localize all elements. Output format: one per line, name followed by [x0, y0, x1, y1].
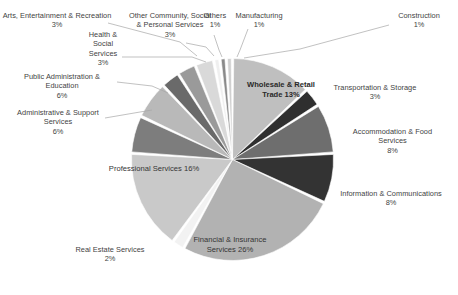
- label-health-social-services: Health & Social Services 3%: [78, 30, 128, 67]
- label-manufacturing: Manufacturing 1%: [225, 11, 293, 30]
- label-publicadmin-line1: Public Administration: [24, 72, 93, 81]
- label-transportation-storage: Transportation & Storage 3%: [330, 83, 420, 102]
- label-health-pct: 3%: [78, 58, 128, 67]
- label-publicadmin-pct: 6%: [8, 91, 116, 100]
- leader-line-health: [122, 57, 206, 62]
- label-realestate-line1: Real Estate Services: [76, 245, 145, 254]
- label-financial-line1: Financial & Insurance: [193, 235, 266, 244]
- label-accommodation-food-services: Accommodation & Food Services 8%: [340, 127, 445, 155]
- label-health-line1: Health &: [89, 30, 118, 39]
- leader-line-construction: [244, 25, 389, 58]
- label-accommodation-pct: 8%: [340, 146, 445, 155]
- label-manufacturing-pct: 1%: [225, 20, 293, 29]
- label-public-administration-education: Public Administration & Education 6%: [8, 72, 116, 100]
- pie-chart-figure: Arts, Entertainment & Recreation 3% Heal…: [0, 0, 458, 295]
- label-administrative-line1: Administrative &: [17, 108, 71, 117]
- label-professional-services: Professional Services 16%: [102, 164, 206, 174]
- label-wholesale-pct: 13%: [285, 90, 300, 99]
- label-wholesale-line1: Wholesale & Retail: [247, 80, 315, 89]
- label-accommodation-line1: Accommodation &: [353, 127, 413, 136]
- label-health-line2: Social: [93, 39, 113, 48]
- label-others-line1: Others: [204, 11, 226, 20]
- label-financial-pct: 26%: [238, 245, 253, 254]
- label-construction: Construction 1%: [388, 11, 450, 30]
- label-construction-line1: Construction: [398, 11, 440, 20]
- label-arts-line2: Recreation: [75, 11, 111, 20]
- label-professional-pct: 16%: [184, 164, 199, 173]
- label-administrative-pct: 6%: [6, 127, 110, 136]
- label-financial-insurance-services: Financial & Insurance Services 26%: [178, 235, 282, 254]
- label-othercommunity-line1: Other Community,: [129, 11, 189, 20]
- label-real-estate-services: Real Estate Services 2%: [52, 245, 168, 264]
- leader-line-othercommunity: [186, 43, 214, 56]
- label-othercommunity-pct: 3%: [126, 30, 214, 39]
- label-information-line2: Communications: [386, 189, 441, 198]
- label-information-pct: 8%: [340, 198, 442, 207]
- label-administrative-support-services: Administrative & Support Services 6%: [6, 108, 110, 136]
- label-arts-line1: Arts, Entertainment &: [3, 11, 74, 20]
- label-professional-line1: Professional Services: [109, 164, 182, 173]
- label-information-communications: Information & Communications 8%: [340, 189, 442, 208]
- label-transport-line1: Transportation &: [334, 83, 389, 92]
- label-wholesale-line2: Trade: [262, 90, 282, 99]
- leader-line-manufacturing: [237, 29, 248, 57]
- label-arts-pct: 3%: [2, 20, 112, 29]
- label-arts-entertainment-recreation: Arts, Entertainment & Recreation 3%: [2, 11, 112, 30]
- label-information-line1: Information &: [340, 189, 384, 198]
- label-wholesale-retail-trade: Wholesale & Retail Trade 13%: [237, 80, 325, 99]
- label-manufacturing-line1: Manufacturing: [235, 11, 282, 20]
- label-health-line3: Services: [89, 49, 118, 58]
- leader-line-others: [214, 35, 222, 57]
- label-realestate-pct: 2%: [52, 254, 168, 263]
- label-construction-pct: 1%: [388, 20, 450, 29]
- label-transport-line2: Storage: [390, 83, 416, 92]
- label-transport-pct: 3%: [330, 92, 420, 101]
- label-financial-line2: Services: [207, 245, 236, 254]
